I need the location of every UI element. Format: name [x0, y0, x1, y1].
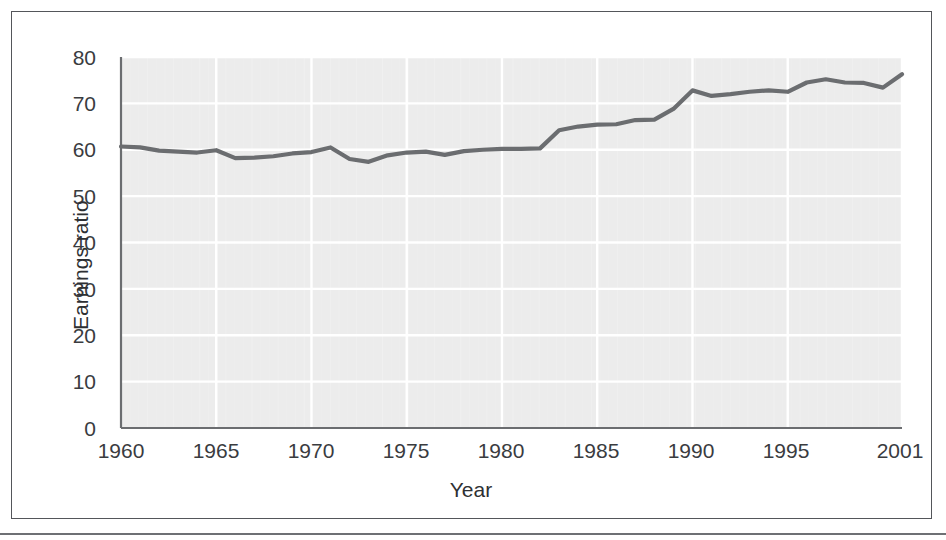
y-tick-label: 0	[26, 418, 96, 439]
x-tick-label: 2001	[855, 440, 945, 461]
x-tick-label: 1990	[646, 440, 736, 461]
x-tick-label: 1970	[266, 440, 356, 461]
y-tick-label: 60	[26, 139, 96, 160]
x-tick-label: 1960	[76, 440, 166, 461]
x-tick-label: 1985	[551, 440, 641, 461]
y-axis-title: Earnings ratio	[70, 200, 91, 330]
x-axis-title: Year	[421, 479, 521, 500]
x-tick-label: 1995	[741, 440, 831, 461]
chart-figure: 80 70 60 50 40 30 20 10 0 1960 1965 1970…	[0, 0, 946, 540]
x-tick-label: 1980	[456, 440, 546, 461]
x-tick-label: 1965	[171, 440, 261, 461]
y-tick-label: 10	[26, 371, 96, 392]
y-tick-label: 80	[26, 47, 96, 68]
page-bottom-rule	[0, 533, 946, 535]
x-tick-label: 1975	[361, 440, 451, 461]
y-tick-label: 70	[26, 93, 96, 114]
